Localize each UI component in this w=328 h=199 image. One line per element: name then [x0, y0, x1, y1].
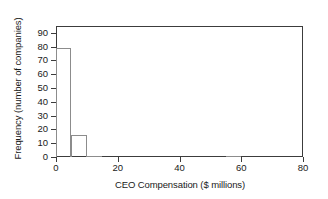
y-tick-label: 70 — [23, 55, 48, 65]
x-tick-label: 20 — [103, 163, 133, 173]
y-tick-label: 60 — [23, 69, 48, 79]
y-tick-label: 0 — [23, 152, 48, 162]
y-tick-mark — [51, 74, 56, 75]
y-tick-mark — [51, 116, 56, 117]
y-tick-mark — [51, 143, 56, 144]
y-tick-mark — [51, 102, 56, 103]
y-tick-label: 40 — [23, 97, 48, 107]
y-tick-label: 20 — [23, 124, 48, 134]
x-tick-label: 80 — [288, 163, 318, 173]
y-tick-mark — [51, 88, 56, 89]
y-tick-label: 90 — [23, 28, 48, 38]
y-tick-mark — [51, 33, 56, 34]
histogram-figure: Frequency (number of companies) 01020304… — [0, 0, 328, 199]
x-tick-label: 60 — [226, 163, 256, 173]
x-tick-label: 40 — [165, 163, 195, 173]
y-tick-mark — [51, 129, 56, 130]
y-tick-mark — [51, 60, 56, 61]
y-tick-mark — [51, 47, 56, 48]
y-axis-label: Frequency (number of companies) — [12, 9, 23, 169]
y-tick-label: 30 — [23, 111, 48, 121]
y-tick-label: 80 — [23, 42, 48, 52]
y-tick-label: 50 — [23, 83, 48, 93]
x-tick-label: 0 — [41, 163, 71, 173]
y-tick-label: 10 — [23, 138, 48, 148]
plot-area — [56, 26, 303, 157]
x-axis-label: CEO Compensation ($ millions) — [56, 179, 304, 190]
